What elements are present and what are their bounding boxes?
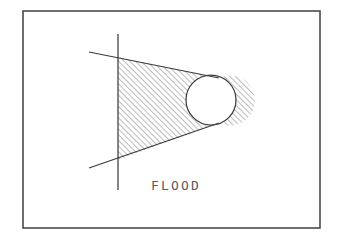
circle-obstacle [186,75,236,125]
figure-container: FLOOD [0,0,343,241]
technical-drawing-canvas: FLOOD [0,0,343,241]
figure-caption-label: FLOOD [151,178,201,193]
